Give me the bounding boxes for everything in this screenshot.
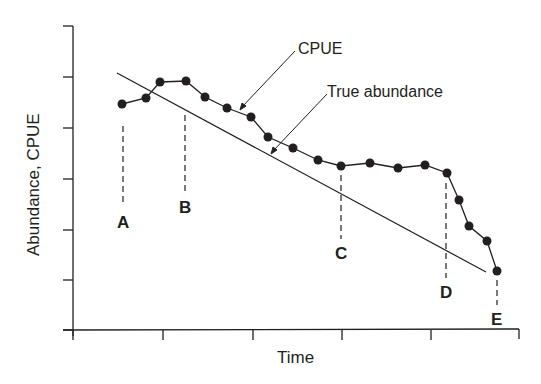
point-label-d: D [440,283,452,302]
data-point [289,144,298,153]
data-point [247,113,256,122]
data-point [421,161,430,170]
cpue-leader [242,51,295,107]
point-label-b: B [179,198,191,217]
y-axis [63,26,73,336]
annotation-arrows [240,51,327,154]
chart: Time Abundance, CPUE [0,0,541,384]
data-point [483,237,492,246]
data-point [118,100,127,109]
cpue-markers [118,77,502,276]
x-axis-title: Time [277,348,314,367]
data-point [394,164,403,173]
data-point [465,222,474,231]
data-point [455,196,464,205]
data-point [201,93,210,102]
data-point [182,77,191,86]
cpue-annotation: CPUE [298,40,342,57]
true-abundance-annotation: True abundance [327,83,443,100]
x-axis [63,329,519,340]
data-point [223,104,232,113]
data-point [142,94,151,103]
data-point [366,159,375,168]
data-point [493,267,502,276]
data-point [156,78,165,87]
data-point [443,169,452,178]
point-label-a: A [117,213,129,232]
point-label-e: E [491,310,502,329]
y-axis-title: Abundance, CPUE [24,113,43,256]
true-abundance-line [117,73,486,272]
data-point [314,156,323,165]
true-abundance-leader [273,94,327,151]
data-point [264,133,273,142]
cpue-line [122,81,497,271]
point-label-c: C [335,244,347,263]
data-point [337,162,346,171]
